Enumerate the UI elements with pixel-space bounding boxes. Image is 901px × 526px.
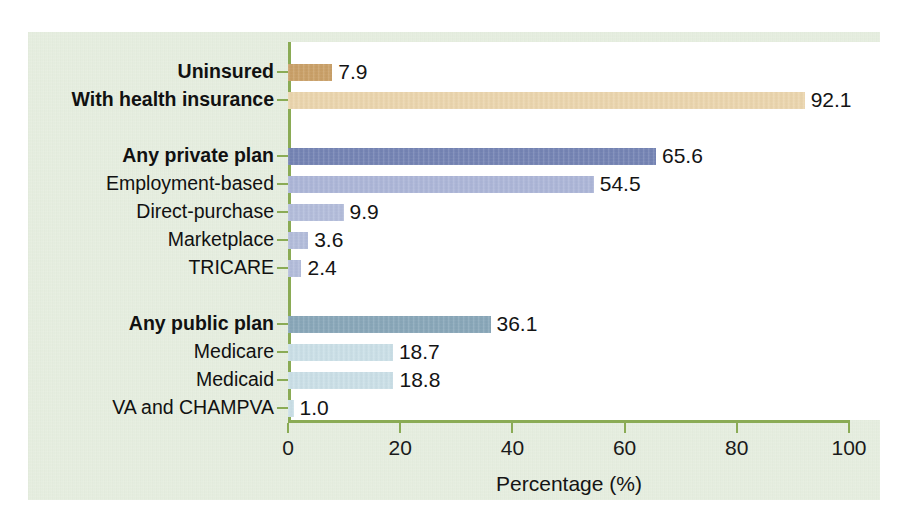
category-label: Direct-purchase <box>24 202 274 222</box>
x-axis-tick-label: 20 <box>360 436 440 460</box>
bar <box>288 260 301 277</box>
bar <box>288 148 656 165</box>
x-axis-tick <box>624 423 626 433</box>
x-axis-title: Percentage (%) <box>288 472 850 496</box>
bar <box>288 344 393 361</box>
bar-value-label: 1.0 <box>300 397 329 418</box>
category-label: Any private plan <box>24 146 274 166</box>
bar <box>288 400 294 417</box>
x-axis-tick-label: 100 <box>809 436 889 460</box>
bar-value-label: 65.6 <box>662 145 703 166</box>
x-axis-tick-label: 80 <box>697 436 777 460</box>
x-axis-tick <box>736 423 738 433</box>
bar <box>288 92 805 109</box>
category-label: Uninsured <box>24 62 274 82</box>
y-axis-tick <box>277 239 288 241</box>
bar-value-label: 3.6 <box>314 229 343 250</box>
bar-value-label: 54.5 <box>600 173 641 194</box>
y-axis-tick <box>277 183 288 185</box>
bar <box>288 372 393 389</box>
bar-value-label: 18.7 <box>399 341 440 362</box>
y-axis-tick <box>277 351 288 353</box>
category-label: With health insurance <box>24 90 274 110</box>
category-label: Employment-based <box>24 174 274 194</box>
category-label: Any public plan <box>24 314 274 334</box>
bar <box>288 204 344 221</box>
x-axis-tick <box>848 423 850 433</box>
x-axis-line <box>288 420 850 423</box>
bar <box>288 176 594 193</box>
y-axis-tick <box>277 379 288 381</box>
y-axis-tick <box>277 71 288 73</box>
bar <box>288 316 491 333</box>
x-axis-tick <box>511 423 513 433</box>
x-axis-tick-label: 40 <box>472 436 552 460</box>
x-axis-tick-label: 0 <box>248 436 328 460</box>
bar-value-label: 7.9 <box>338 61 367 82</box>
x-axis-tick <box>399 423 401 433</box>
bar-value-label: 9.9 <box>350 201 379 222</box>
category-label: Marketplace <box>24 230 274 250</box>
category-label: Medicare <box>24 342 274 362</box>
bar <box>288 232 308 249</box>
y-axis-tick <box>277 211 288 213</box>
bar-value-label: 92.1 <box>811 89 852 110</box>
bar-value-label: 36.1 <box>497 313 538 334</box>
bar <box>288 64 332 81</box>
y-axis-tick <box>277 323 288 325</box>
x-axis-tick <box>287 423 289 433</box>
y-axis-tick <box>277 155 288 157</box>
bar-value-label: 18.8 <box>399 369 440 390</box>
category-label: VA and CHAMPVA <box>24 398 274 418</box>
x-axis-tick-label: 60 <box>585 436 665 460</box>
bar-value-label: 2.4 <box>307 257 336 278</box>
y-axis-tick <box>277 99 288 101</box>
y-axis-tick <box>277 407 288 409</box>
category-label: Medicaid <box>24 370 274 390</box>
y-axis-tick <box>277 267 288 269</box>
category-label: TRICARE <box>24 258 274 278</box>
chart-figure: 020406080100 UninsuredWith health insura… <box>0 0 901 526</box>
